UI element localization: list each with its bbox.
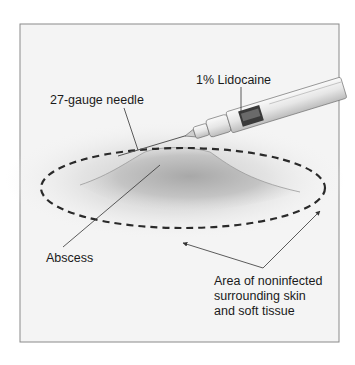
- label-area-line2: surrounding skin: [214, 289, 306, 303]
- label-area-line1: Area of noninfected: [214, 274, 322, 288]
- label-needle: 27-gauge needle: [50, 93, 144, 107]
- label-abscess: Abscess: [46, 251, 93, 265]
- abscess-anesthesia-diagram: 1% Lidocaine 27-gauge needle Abscess Are…: [0, 0, 355, 365]
- label-lidocaine: 1% Lidocaine: [196, 73, 271, 87]
- label-area-line3: and soft tissue: [214, 304, 295, 318]
